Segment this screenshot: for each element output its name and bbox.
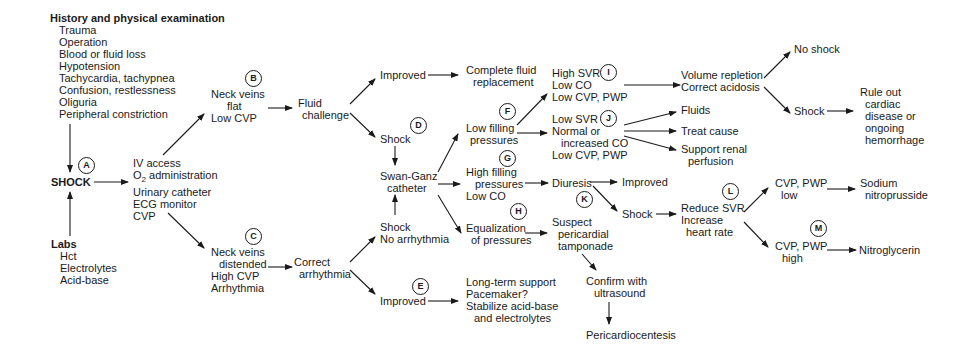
- text-line: Normal or: [552, 125, 628, 137]
- text-line: low: [775, 189, 827, 201]
- text-line: Low filling: [466, 122, 518, 134]
- text-line: replacement: [466, 76, 536, 88]
- history-item: Tachycardia, tachypnea: [59, 72, 225, 84]
- history-item: Confusion, restlessness: [59, 84, 225, 96]
- cvp-pwp-low-block: CVP, PWP low: [775, 177, 827, 201]
- text-line: Long-term support: [466, 276, 558, 288]
- long-term-support-block: Long-term support Pacemaker? Stabilize a…: [466, 276, 558, 324]
- support-renal-block: Support renal perfusion: [681, 143, 747, 167]
- text-line: High SVR: [552, 67, 628, 79]
- shock-no-arrhythmia-block: Shock No arrhythmia: [380, 221, 449, 245]
- shock-label: SHOCK: [51, 176, 91, 188]
- labs-item: Hct: [60, 250, 117, 262]
- text-line: pericardial: [552, 228, 613, 240]
- cvp: CVP: [133, 210, 218, 222]
- ecg-monitor: ECG monitor: [133, 198, 218, 210]
- marker-k: K: [576, 191, 593, 208]
- text-line: ultrasound: [586, 287, 647, 299]
- shock-management-flowchart: History and physical examination Trauma …: [0, 0, 968, 353]
- fluids: Fluids: [681, 104, 710, 116]
- correct-arrhythmia-block: Correct arrhythmia: [294, 256, 351, 280]
- text-line: and electrolytes: [466, 312, 558, 324]
- labs-item: Acid-base: [60, 274, 117, 286]
- nitroglycerin: Nitroglycerin: [859, 244, 920, 256]
- improved-after-fluid: Improved: [380, 69, 426, 81]
- text-line: ongoing: [860, 122, 924, 134]
- text-line: High filling: [466, 166, 523, 178]
- text-line: disease or: [860, 110, 924, 122]
- text-line: CVP, PWP: [775, 240, 827, 252]
- high-filling-pressures-block: High filling pressures Low CO: [466, 166, 523, 202]
- marker-b: B: [245, 70, 262, 87]
- fluid-challenge-block: Fluid challenge: [298, 97, 349, 121]
- swan-ganz-catheter-block: Swan-Ganz catheter: [380, 170, 437, 194]
- volume-repletion-block: Volume repletion Correct acidosis: [681, 69, 763, 93]
- labs-item: Electrolytes: [60, 262, 117, 274]
- text-line: Confirm with: [586, 275, 647, 287]
- o2-administration: O2 administration: [133, 169, 218, 186]
- text-line: cardiac: [860, 98, 924, 110]
- text-line: Rule out: [860, 86, 924, 98]
- text-line: Reduce SVR: [681, 202, 745, 214]
- text-line: heart rate: [681, 226, 745, 238]
- rule-out-block: Rule out cardiac disease or ongoing hemo…: [860, 86, 924, 146]
- marker-h: H: [510, 203, 527, 220]
- text-line: Shock: [380, 221, 449, 233]
- text-line: No arrhythmia: [380, 233, 449, 245]
- suspect-tamponade-block: Suspect pericardial tamponade: [552, 216, 613, 252]
- text-line: catheter: [380, 182, 437, 194]
- history-item: Blood or fluid loss: [59, 48, 225, 60]
- iv-access: IV access: [133, 157, 218, 169]
- shock-after-fluid: Shock: [380, 133, 411, 145]
- sodium-nitroprusside-block: Sodium nitroprusside: [860, 177, 928, 201]
- text-line: Stabilize acid-base: [466, 300, 558, 312]
- text-line: pressures: [466, 178, 523, 190]
- marker-l: L: [722, 183, 739, 200]
- pericardiocentesis: Pericardiocentesis: [586, 329, 676, 341]
- text-line: arrhythmia: [294, 268, 351, 280]
- text-line: Pacemaker?: [466, 288, 558, 300]
- marker-c: C: [245, 228, 262, 245]
- complete-fluid-replacement-block: Complete fluid replacement: [466, 64, 536, 88]
- history-item: Oliguria: [59, 96, 225, 108]
- text-line: distended: [211, 258, 267, 270]
- text-line: High CVP: [211, 270, 267, 282]
- text-line: Neck veins: [211, 88, 265, 100]
- neck-veins-distended-block: Neck veins distended High CVP Arrhythmia: [211, 246, 267, 294]
- text-line: Support renal: [681, 143, 747, 155]
- text-line: perfusion: [681, 155, 747, 167]
- text-line: Sodium: [860, 177, 928, 189]
- history-item: Trauma: [59, 24, 225, 36]
- marker-f: F: [499, 103, 516, 120]
- text-line: Low SVR: [552, 113, 628, 125]
- improved-after-diuresis: Improved: [622, 176, 668, 188]
- history-item: Peripheral constriction: [59, 108, 225, 120]
- reduce-svr-block: Reduce SVR Increase heart rate: [681, 202, 745, 238]
- marker-m: M: [810, 220, 827, 237]
- text-line: high: [775, 252, 827, 264]
- low-filling-pressures-block: Low filling pressures: [466, 122, 518, 146]
- text-line: Equalization: [466, 222, 532, 234]
- low-svr-block: Low SVR Normal or increased CO Low CVP, …: [552, 113, 628, 161]
- confirm-ultrasound-block: Confirm with ultrasound: [586, 275, 647, 299]
- text-line: challenge: [298, 109, 349, 121]
- history-block: History and physical examination Trauma …: [50, 12, 225, 120]
- marker-a: A: [78, 157, 95, 174]
- text-line: Low CVP, PWP: [552, 91, 628, 103]
- text-line: pressures: [466, 134, 518, 146]
- diuresis: Diuresis: [552, 177, 592, 189]
- high-svr-block: High SVR Low CO Low CVP, PWP: [552, 67, 628, 103]
- text-line: Volume repletion: [681, 69, 763, 81]
- text-line: Swan-Ganz: [380, 170, 437, 182]
- text-line: flat: [211, 100, 265, 112]
- text-line: Complete fluid: [466, 64, 536, 76]
- text-line: Neck veins: [211, 246, 267, 258]
- text-line: increased CO: [552, 137, 628, 149]
- text-line: Low CO: [466, 190, 523, 202]
- no-shock: No shock: [794, 43, 840, 55]
- text-line: hemorrhage: [860, 134, 924, 146]
- improved-after-arrhythmia: Improved: [380, 295, 426, 307]
- history-item: Operation: [59, 36, 225, 48]
- text-line: CVP, PWP: [775, 177, 827, 189]
- text-line: Suspect: [552, 216, 613, 228]
